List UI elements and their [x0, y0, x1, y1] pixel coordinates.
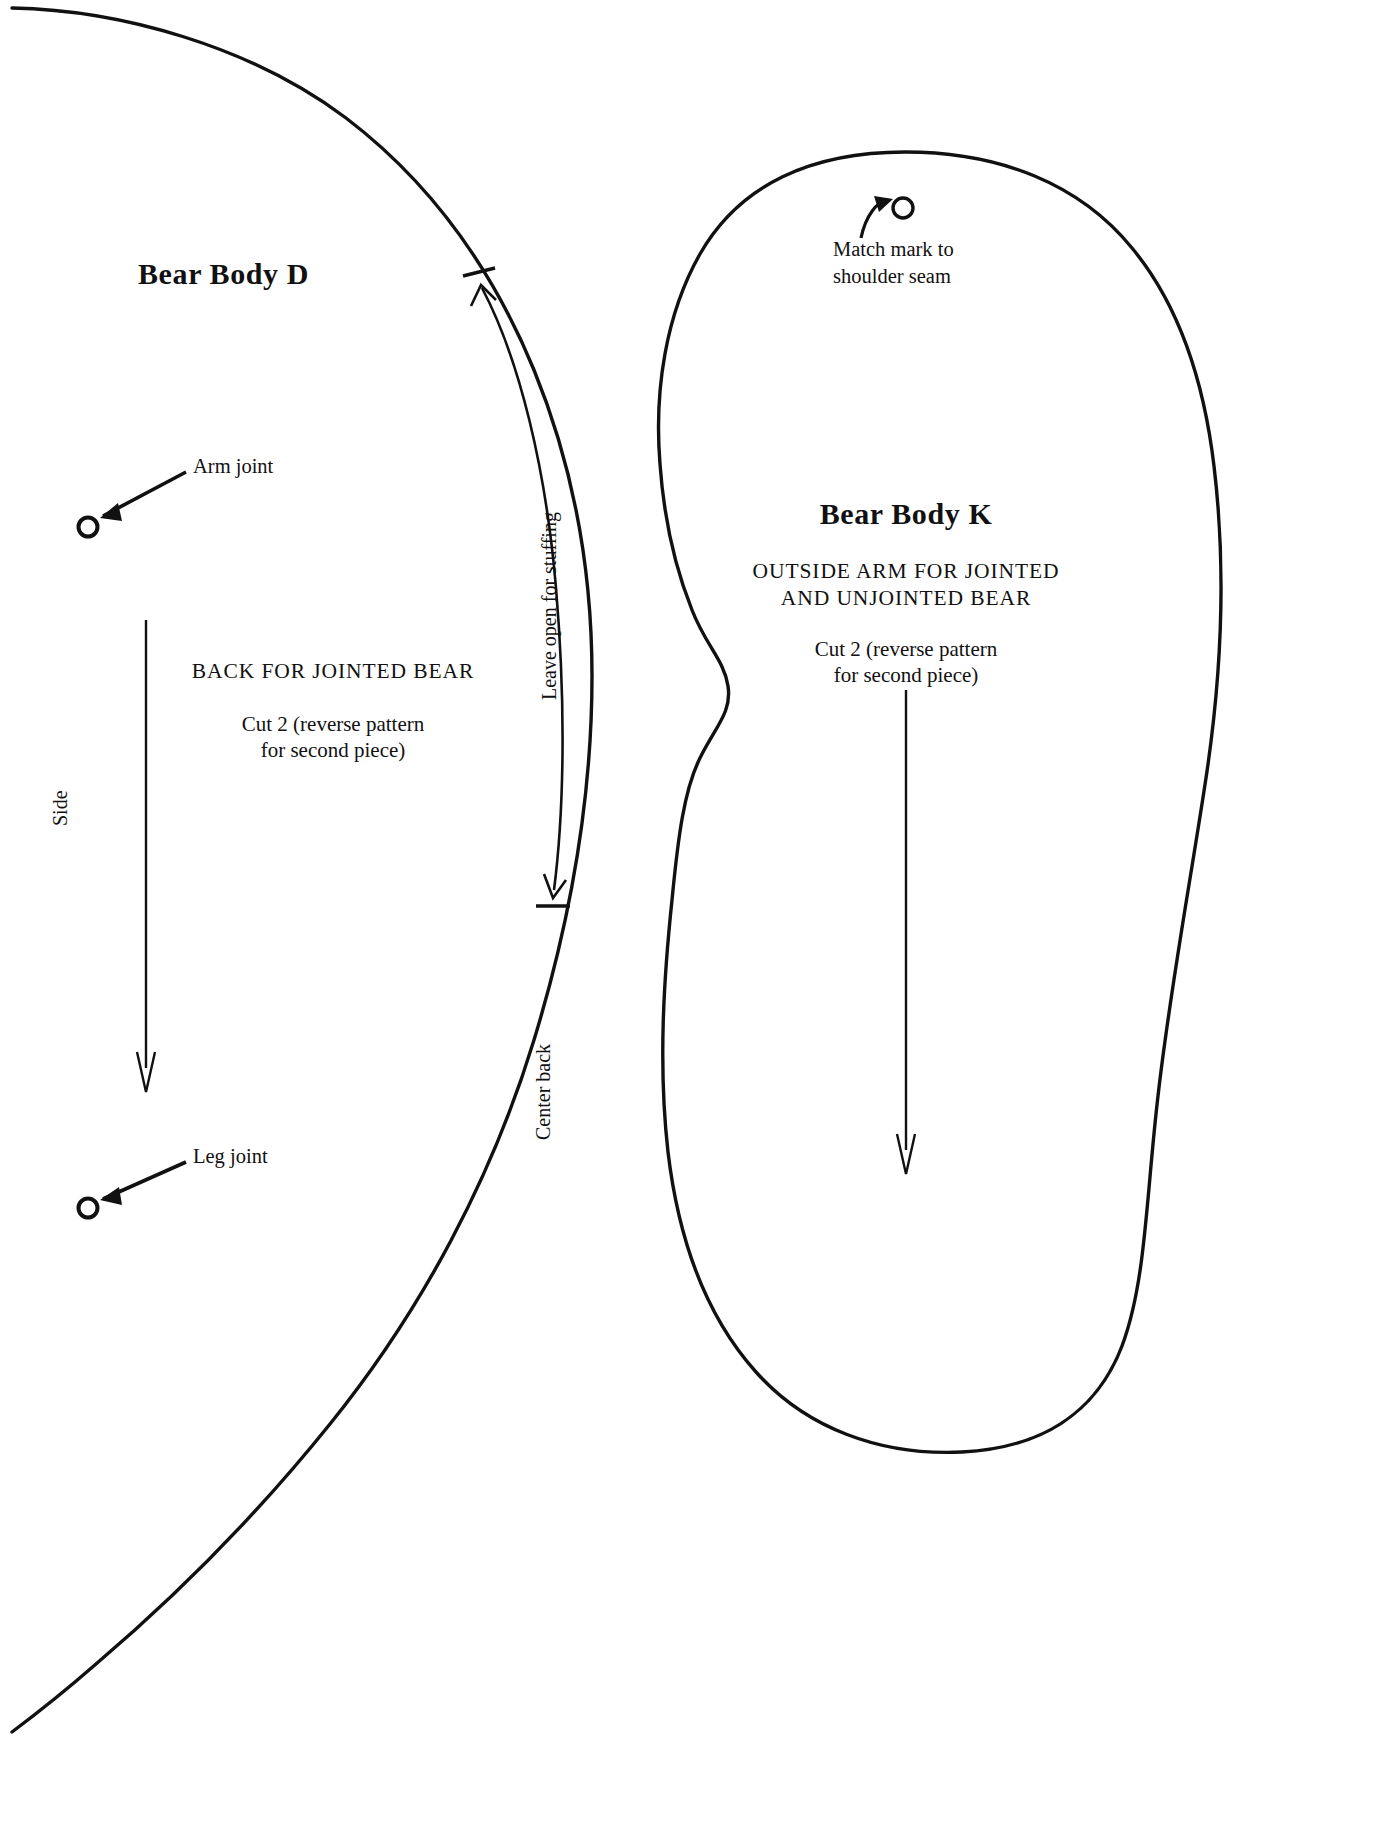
bear-body-k-outline	[659, 152, 1221, 1452]
edge-label-center-back: Center back	[531, 1044, 556, 1140]
piece-d-cut-line-2: for second piece)	[180, 737, 486, 763]
edge-label-side: Side	[48, 790, 73, 826]
piece-d-cut-line-1: Cut 2 (reverse pattern	[180, 711, 486, 737]
grain-arrow-k	[897, 690, 915, 1174]
piece-d-description: BACK FOR JOINTED BEAR	[180, 658, 486, 685]
match-mark-label-line-2: shoulder seam	[833, 263, 951, 290]
arm-joint-label: Arm joint	[193, 454, 273, 480]
page-title-bear-body-d: Bear Body D	[138, 255, 309, 293]
pattern-sheet: Bear Body D Arm joint Leg joint BACK FOR…	[0, 0, 1389, 1835]
piece-k-description-line-2: AND UNJOINTED BEAR	[744, 585, 1068, 612]
match-mark	[861, 196, 913, 238]
edge-label-leave-open: Leave open for stuffing	[537, 512, 562, 700]
piece-k-description-line-1: OUTSIDE ARM FOR JOINTED	[744, 558, 1068, 585]
leg-joint-label: Leg joint	[193, 1144, 268, 1170]
leg-joint-mark	[79, 1162, 187, 1218]
grain-arrow-d	[137, 620, 155, 1092]
arm-joint-mark	[79, 472, 187, 537]
piece-k-cut-line-1: Cut 2 (reverse pattern	[744, 636, 1068, 662]
piece-k-cut-line-2: for second piece)	[744, 662, 1068, 688]
page-title-bear-body-k: Bear Body K	[744, 495, 1068, 533]
match-mark-label-line-1: Match mark to	[833, 236, 954, 263]
